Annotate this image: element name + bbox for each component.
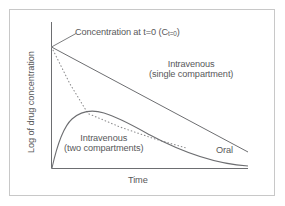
annotation-intravenous-single-compartment: Intravenous (single compartment) xyxy=(149,59,233,80)
annotation-ct0-main: Concentration at t=0 (C xyxy=(75,27,168,37)
annotation-ct0-subscript: t=0 xyxy=(168,30,177,37)
annotation-ct0-close: ) xyxy=(177,27,180,37)
annotation-oral: Oral xyxy=(216,145,233,155)
figure-container: Concentration at t=0 (Ct=0) Intravenous … xyxy=(0,0,285,206)
annotation-iv-single-line2: (single compartment) xyxy=(149,69,233,79)
annotation-iv-two-line2: (two compartments) xyxy=(64,143,143,153)
y-axis-label: Log of drug concentration xyxy=(26,32,36,172)
annotation-iv-single-line1: Intravenous xyxy=(149,59,233,69)
annotation-iv-two-line1: Intravenous xyxy=(64,133,143,143)
annotation-intravenous-two-compartments: Intravenous (two compartments) xyxy=(64,133,143,154)
x-axis-label: Time xyxy=(128,175,148,185)
annotation-concentration-at-t0: Concentration at t=0 (Ct=0) xyxy=(75,27,180,37)
c-t-zero-leader-line xyxy=(52,34,77,48)
